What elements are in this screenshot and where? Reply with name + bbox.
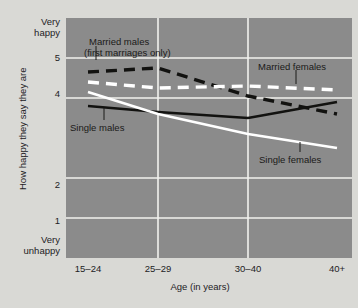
x-axis-tick-30-40: 30–40 xyxy=(235,263,261,274)
y-axis-bottom-label-line1: Very xyxy=(41,234,60,245)
x-axis-title: Age (in years) xyxy=(170,281,229,292)
y-axis-bottom-label-line2: unhappy xyxy=(24,245,61,256)
y-axis-top-label-line2: happy xyxy=(34,27,60,38)
y-axis-title: How happy they say they are xyxy=(17,67,28,190)
x-axis-tick-40-plus: 40+ xyxy=(329,263,346,274)
series-label-married-females: Married females xyxy=(258,61,326,72)
y-axis-tick-2: 2 xyxy=(55,179,60,190)
series-label-married-males-line1: Married males xyxy=(89,36,149,47)
happiness-line-chart: Very happy 5 4 2 1 Very unhappy How happ… xyxy=(0,0,358,308)
series-label-single-females: Single females xyxy=(259,154,322,165)
y-axis-top-label-line1: Very xyxy=(41,16,60,27)
chart-figure: Very happy 5 4 2 1 Very unhappy How happ… xyxy=(0,0,358,308)
series-label-married-males-line2: (first marriages only) xyxy=(84,47,171,58)
x-axis-tick-25-29: 25–29 xyxy=(145,263,171,274)
series-label-single-males: Single males xyxy=(70,122,125,133)
y-axis-tick-1: 1 xyxy=(55,215,60,226)
y-axis-tick-5: 5 xyxy=(55,52,60,63)
y-axis-tick-4: 4 xyxy=(55,88,60,99)
x-axis-tick-15-24: 15–24 xyxy=(75,263,101,274)
